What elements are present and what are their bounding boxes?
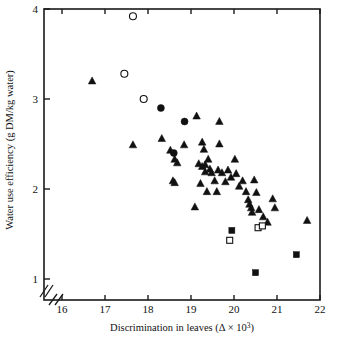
y-tick-label-1: 1 bbox=[33, 273, 39, 285]
x-axis-label-main: Discrimination in leaves ( bbox=[110, 322, 219, 334]
data-point-open-square-3 bbox=[259, 223, 265, 229]
data-point-filled-square-2 bbox=[253, 270, 259, 276]
x-tick-label-16: 16 bbox=[57, 303, 69, 315]
y-axis-label: Water use efficiency (g DM/kg water) bbox=[4, 70, 16, 230]
x-tick-label-19: 19 bbox=[186, 303, 198, 315]
x-tick-label-21: 21 bbox=[272, 303, 283, 315]
data-point-filled-square-1 bbox=[229, 227, 235, 233]
x-axis-label-symbol: Δ × 10 bbox=[219, 322, 247, 333]
data-point-open-circle-3 bbox=[140, 96, 147, 103]
x-tick-label-18: 18 bbox=[143, 303, 155, 315]
data-point-filled-square-3 bbox=[293, 252, 299, 258]
plot-canvas: 161718192021221234 Discrimination in lea… bbox=[0, 0, 337, 337]
plot-background bbox=[0, 0, 337, 337]
scatter-plot-figure: 161718192021221234 Discrimination in lea… bbox=[0, 0, 337, 337]
x-tick-label-20: 20 bbox=[229, 303, 241, 315]
x-axis-label: Discrimination in leaves (Δ × 103) bbox=[110, 321, 254, 335]
y-tick-label-4: 4 bbox=[33, 3, 39, 15]
data-point-open-circle-2 bbox=[121, 70, 128, 77]
data-point-open-square-1 bbox=[227, 237, 233, 243]
data-point-filled-circle-2 bbox=[181, 118, 188, 125]
x-tick-label-22: 22 bbox=[315, 303, 326, 315]
y-tick-label-3: 3 bbox=[33, 93, 39, 105]
x-tick-label-17: 17 bbox=[100, 303, 112, 315]
y-tick-label-2: 2 bbox=[33, 183, 39, 195]
data-point-filled-circle-1 bbox=[157, 105, 164, 112]
data-point-filled-circle-3 bbox=[170, 150, 177, 157]
x-axis-label-close: ) bbox=[250, 322, 254, 334]
data-point-open-circle-1 bbox=[129, 13, 136, 20]
